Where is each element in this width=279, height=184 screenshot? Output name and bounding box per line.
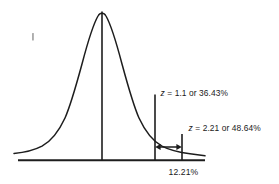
scan-artifact-mark (32, 33, 34, 41)
normal-distribution-diagram: z = 1.1 or 36.43% z = 2.21 or 48.64% 12.… (0, 0, 279, 184)
region-percent-label: 12.21% (169, 167, 199, 177)
bell-curve-path (14, 13, 205, 156)
z-1-1-label: z = 1.1 or 36.43% (160, 88, 229, 98)
z-2-21-label: z = 2.21 or 48.64% (188, 123, 262, 133)
